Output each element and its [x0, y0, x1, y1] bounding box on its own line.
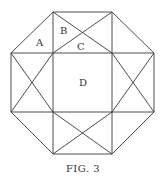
label-b: B — [60, 25, 67, 36]
figure-caption: FIG. 3 — [66, 163, 100, 174]
label-d: D — [79, 77, 87, 88]
octagon-diagram: A B C D FIG. 3 — [0, 0, 166, 176]
label-a: A — [35, 37, 44, 48]
label-c: C — [77, 41, 85, 52]
